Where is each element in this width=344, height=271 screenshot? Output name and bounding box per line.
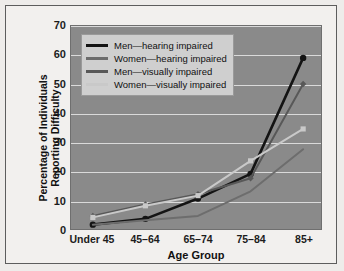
data-point-marker (90, 215, 95, 220)
data-point-marker (248, 158, 253, 163)
legend-item: Women—visually impaired (86, 78, 227, 91)
legend-item: Men—visually impaired (86, 65, 227, 78)
x-axis-tick-label: 65–74 (183, 233, 212, 245)
plot-area: Men—hearing impairedWomen—hearing impair… (70, 25, 322, 230)
y-axis-tick-label: 20 (30, 166, 66, 176)
legend-item: Men—hearing impaired (86, 39, 227, 52)
x-axis-tick-label: 45–64 (130, 233, 159, 245)
y-axis-tick-label: 0 (30, 225, 66, 235)
legend-label: Women—hearing impaired (114, 53, 227, 64)
legend-item: Women—hearing impaired (86, 52, 227, 65)
legend-label: Women—visually impaired (114, 79, 226, 90)
figure-frame: Percentage of Individuals Reporting Diff… (5, 5, 337, 264)
data-point-marker (300, 55, 306, 61)
page-canvas: Percentage of Individuals Reporting Diff… (0, 0, 344, 271)
x-axis-tick-label: Under 45 (70, 233, 115, 245)
legend-label: Men—hearing impaired (114, 40, 213, 51)
y-axis-ticks: 010203040506070 (26, 25, 66, 230)
y-axis-tick-label: 70 (30, 20, 66, 30)
y-axis-tick-label: 60 (30, 49, 66, 59)
legend-label: Men—visually impaired (114, 66, 212, 77)
x-axis-title: Age Group (70, 249, 322, 261)
x-axis-tick-label: 75–84 (236, 233, 265, 245)
data-point-marker (143, 203, 148, 208)
x-axis-tick-label: 85+ (295, 233, 313, 245)
x-axis-ticks: Under 4545–6465–7475–8485+ (70, 233, 322, 247)
y-axis-tick-label: 10 (30, 196, 66, 206)
y-axis-tick-label: 50 (30, 79, 66, 89)
data-point-marker (301, 126, 306, 131)
data-line (93, 149, 303, 224)
legend-swatch (86, 83, 108, 86)
legend-swatch (86, 44, 108, 47)
y-axis-tick-label: 40 (30, 108, 66, 118)
legend-swatch (86, 70, 108, 73)
y-axis-tick-label: 30 (30, 137, 66, 147)
data-point-marker (195, 193, 200, 198)
legend: Men—hearing impairedWomen—hearing impair… (81, 34, 234, 96)
legend-swatch (86, 57, 108, 60)
